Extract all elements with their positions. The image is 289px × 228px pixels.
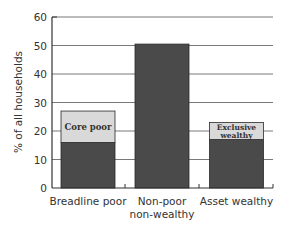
x-category-label: non-wealthy xyxy=(130,208,195,220)
bar-segment xyxy=(61,142,115,188)
y-tick-label: 40 xyxy=(34,68,47,80)
bars: Core poorExclusivewealthy xyxy=(61,44,264,188)
x-axis-labels: Breadline poorNon-poornon-wealthyAsset w… xyxy=(50,195,274,220)
y-tick-label: 50 xyxy=(34,40,47,52)
y-axis-label: % of all households xyxy=(12,51,24,153)
y-tick-label: 20 xyxy=(34,125,47,137)
bar-segment xyxy=(135,44,189,188)
y-tick-label: 0 xyxy=(40,182,47,194)
x-category-label: Breadline poor xyxy=(50,195,128,207)
bar-segment xyxy=(210,140,264,188)
y-tick-label: 30 xyxy=(34,97,47,109)
x-category-label: Non-poor xyxy=(138,195,187,207)
y-tick-label: 10 xyxy=(34,154,47,166)
y-axis-ticks: 0102030405060 xyxy=(34,11,47,194)
segment-label: wealthy xyxy=(219,131,253,140)
x-category-label: Asset wealthy xyxy=(200,195,273,207)
y-tick-label: 60 xyxy=(34,11,47,23)
segment-label: Core poor xyxy=(64,122,112,132)
stacked-bar-chart: Core poorExclusivewealthy 0102030405060 … xyxy=(0,0,289,228)
